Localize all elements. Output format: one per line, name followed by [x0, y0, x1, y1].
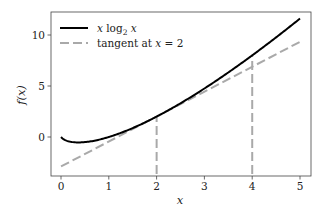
legend-label-tangent: tangent at x = 2 [97, 37, 183, 49]
x-tick-label: 2 [153, 180, 160, 192]
legend-label-xlog2x: x log2 x [97, 22, 137, 37]
x-tick-label: 0 [58, 180, 65, 192]
x-tick-label: 4 [249, 180, 256, 192]
legend: x log2 x tangent at x = 2 [60, 22, 183, 49]
x-axis-label: x [177, 193, 184, 207]
x-tick-label: 1 [105, 180, 112, 192]
y-axis-label: f(x) [14, 85, 28, 106]
chart: 0 1 2 3 4 5 x 0 5 10 f(x) x log2 x tange… [0, 0, 329, 213]
y-tick-label: 0 [38, 131, 45, 143]
x-axis: 0 1 2 3 4 5 x [58, 176, 304, 207]
x-tick-label: 3 [201, 180, 208, 192]
y-tick-label: 10 [32, 29, 45, 41]
y-axis: 0 5 10 f(x) [14, 29, 51, 143]
y-tick-label: 5 [38, 80, 45, 92]
x-tick-label: 5 [297, 180, 304, 192]
